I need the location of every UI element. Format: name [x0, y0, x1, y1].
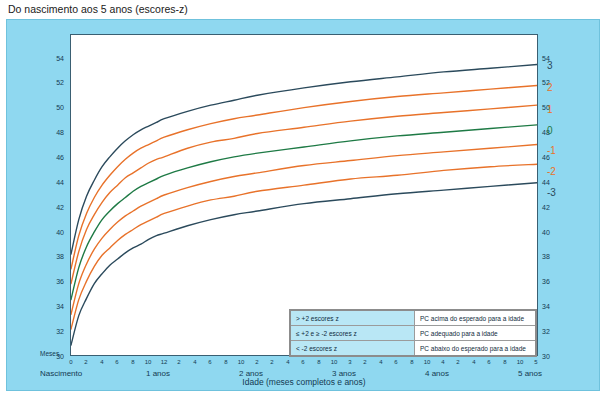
legend-condition: ≤ +2 e ≥ -2 escores z — [291, 326, 415, 340]
curve-z-3 — [71, 65, 537, 255]
plot-area — [70, 34, 538, 356]
zscore-label-1: 1 — [547, 104, 553, 115]
zscore-label-0: 0 — [547, 125, 553, 136]
y-tick-left-40: 40 — [48, 229, 64, 236]
x-tick-21: 6 — [390, 359, 402, 365]
x-tick-17: 10 — [328, 359, 340, 365]
x-tick-0: 0 — [65, 359, 77, 365]
x-tick-22: 8 — [406, 359, 418, 365]
x-axis-label: Idade (meses completos e anos) — [70, 377, 538, 387]
legend: > +2 escores z PC acima do esperado para… — [289, 309, 537, 357]
x-tick-30: 5 — [530, 359, 542, 365]
x-tick-8: 4 — [189, 359, 201, 365]
x-major-label-2y: 2 anos — [239, 369, 263, 378]
curve-z--1 — [71, 145, 537, 315]
x-tick-24: 4 — [437, 359, 449, 365]
y-tick-left-30: 30 — [48, 353, 64, 360]
x-tick-18: 3 — [344, 359, 356, 365]
y-tick-left-36: 36 — [48, 278, 64, 285]
legend-condition: < -2 escores z — [291, 341, 415, 355]
x-major-label-birth: Nascimento — [40, 369, 82, 378]
x-tick-25: 2 — [452, 359, 464, 365]
legend-meaning: PC acima do esperado para a idade — [415, 311, 535, 325]
x-tick-2: 4 — [96, 359, 108, 365]
x-tick-6: 12 — [158, 359, 170, 365]
y-tick-right-42: 42 — [542, 204, 558, 211]
zscore-label-minus1: -1 — [547, 145, 556, 156]
y-tick-right-34: 34 — [542, 303, 558, 310]
y-tick-left-54: 54 — [48, 55, 64, 62]
y-tick-left-32: 32 — [48, 328, 64, 335]
y-tick-right-32: 32 — [542, 328, 558, 335]
legend-row: ≤ +2 e ≥ -2 escores z PC adequado para a… — [291, 326, 535, 341]
x-tick-28: 8 — [499, 359, 511, 365]
zscore-label-3: 3 — [547, 60, 553, 71]
curve-z-2 — [71, 85, 537, 268]
y-tick-right-36: 36 — [542, 278, 558, 285]
x-tick-9: 6 — [204, 359, 216, 365]
x-tick-12: 2 — [251, 359, 263, 365]
legend-meaning: PC adequado para a idade — [415, 326, 535, 340]
zscore-label-2: 2 — [547, 82, 553, 93]
y-tick-left-46: 46 — [48, 154, 64, 161]
legend-row: > +2 escores z PC acima do esperado para… — [291, 311, 535, 326]
x-tick-15: 6 — [297, 359, 309, 365]
y-tick-right-30: 30 — [542, 353, 558, 360]
page-title: Do nascimento aos 5 anos (escores-z) — [8, 3, 188, 15]
x-tick-3: 6 — [111, 359, 123, 365]
x-tick-5: 10 — [142, 359, 154, 365]
x-tick-10: 8 — [220, 359, 232, 365]
y-tick-left-42: 42 — [48, 204, 64, 211]
y-tick-right-40: 40 — [542, 229, 558, 236]
x-tick-26: 4 — [468, 359, 480, 365]
x-major-label-3y: 3 anos — [332, 369, 356, 378]
curve-z-1 — [71, 105, 537, 283]
curves-svg — [71, 35, 537, 355]
zscore-label-minus2: -2 — [547, 166, 556, 177]
legend-condition: > +2 escores z — [291, 311, 415, 325]
curve-z--2 — [71, 164, 537, 329]
x-tick-11: 10 — [235, 359, 247, 365]
x-tick-29: 10 — [514, 359, 526, 365]
x-major-label-5y: 5 anos — [518, 369, 542, 378]
x-major-label-4y: 4 anos — [425, 369, 449, 378]
x-major-label-1y: 1 anos — [146, 369, 170, 378]
y-tick-left-38: 38 — [48, 253, 64, 260]
x-tick-20: 4 — [375, 359, 387, 365]
y-tick-left-44: 44 — [48, 179, 64, 186]
legend-meaning: PC abaixo do esperado para a idade — [415, 341, 535, 355]
y-tick-right-38: 38 — [542, 253, 558, 260]
y-tick-left-50: 50 — [48, 104, 64, 111]
legend-row: < -2 escores z PC abaixo do esperado par… — [291, 341, 535, 355]
curve-z-0 — [71, 125, 537, 300]
x-tick-14: 4 — [282, 359, 294, 365]
chart-page: Do nascimento aos 5 anos (escores-z) Per… — [0, 0, 609, 398]
x-tick-13: 2 — [266, 359, 278, 365]
x-tick-23: 10 — [421, 359, 433, 365]
chart-frame: Perímetro Cefálico (cm) Idade (meses com… — [6, 19, 600, 391]
y-tick-left-48: 48 — [48, 129, 64, 136]
x-tick-16: 8 — [313, 359, 325, 365]
x-tick-1: 2 — [80, 359, 92, 365]
y-tick-right-44: 44 — [542, 179, 558, 186]
y-tick-left-52: 52 — [48, 79, 64, 86]
x-tick-4: 8 — [127, 359, 139, 365]
x-tick-27: 6 — [483, 359, 495, 365]
zscore-label-minus3: -3 — [547, 187, 556, 198]
y-tick-left-34: 34 — [48, 303, 64, 310]
x-tick-19: 2 — [359, 359, 371, 365]
x-tick-7: 2 — [173, 359, 185, 365]
